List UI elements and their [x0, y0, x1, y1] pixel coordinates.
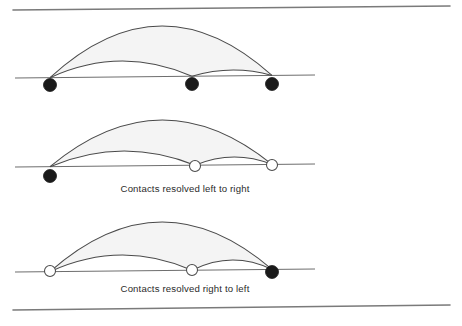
panel-caption: Contacts resolved left to right [121, 183, 250, 194]
contact-node-hollow-right[interactable] [267, 160, 278, 171]
contact-node-filled-left[interactable] [44, 79, 57, 92]
contact-node-filled-right[interactable] [266, 266, 279, 279]
panel-caption: Contacts resolved right to left [121, 283, 250, 294]
figure-root: Contacts resolved left to rightContacts … [0, 0, 462, 326]
contact-node-filled-left[interactable] [44, 170, 57, 183]
contact-node-filled-middle[interactable] [186, 78, 199, 91]
contact-node-hollow-middle[interactable] [187, 265, 198, 276]
contact-node-hollow-left[interactable] [45, 266, 56, 277]
contact-node-filled-right[interactable] [266, 78, 279, 91]
contact-node-hollow-middle[interactable] [190, 161, 201, 172]
diagram-canvas: Contacts resolved left to rightContacts … [0, 0, 462, 326]
